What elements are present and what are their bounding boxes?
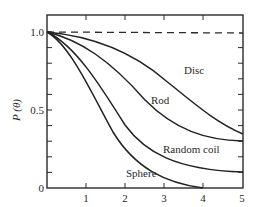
sphere-curve: [47, 32, 203, 188]
sphere-label: Sphere: [126, 167, 157, 179]
curves: [47, 32, 243, 188]
x-tick-label: 5: [239, 192, 245, 204]
x-tick-label: 2: [122, 192, 128, 204]
y-tick-label: 0.5: [30, 104, 44, 116]
chart: 1.0 0.5 0 1 2 3 4 5 P (θ) Disc Rod Rando…: [0, 0, 256, 207]
reference-dashed-line: [47, 32, 243, 33]
y-tick-label: 1.0: [30, 26, 44, 38]
x-tick-labels: 1 2 3 4 5: [83, 192, 245, 204]
plot-frame: [47, 15, 243, 188]
rod-label: Rod: [151, 94, 170, 106]
y-tick-label: 0: [39, 182, 45, 194]
disc-label: Disc: [184, 64, 204, 76]
disc-curve: [47, 32, 243, 134]
x-tick-label: 3: [161, 192, 167, 204]
y-tick-labels: 1.0 0.5 0: [30, 26, 44, 194]
y-axis-label: P (θ): [10, 99, 23, 122]
x-tick-label: 1: [83, 192, 89, 204]
random-coil-label: Random coil: [163, 143, 220, 155]
x-tick-label: 4: [200, 192, 206, 204]
rod-curve: [47, 32, 243, 141]
x-axis-ticks: [86, 15, 203, 188]
